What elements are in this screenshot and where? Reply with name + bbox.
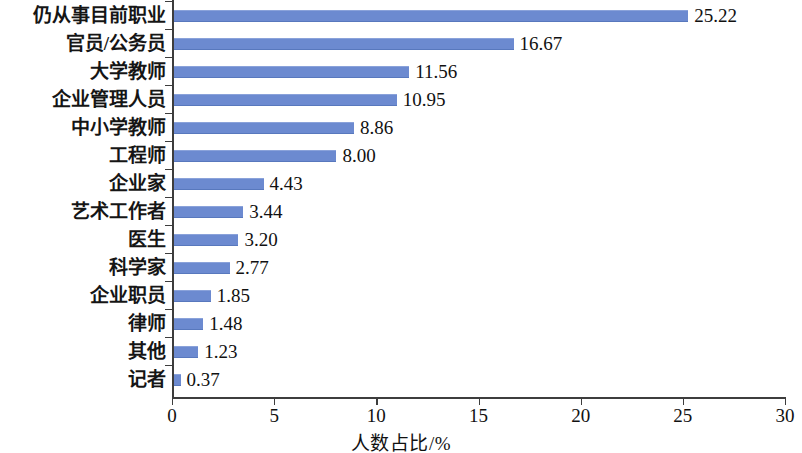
x-axis-tick-label: 15 bbox=[454, 404, 504, 428]
category-label: 其他 bbox=[0, 338, 166, 366]
bar-row: 律师1.48 bbox=[0, 310, 802, 338]
bar bbox=[173, 318, 203, 330]
bar bbox=[173, 10, 688, 22]
x-axis-tick-label: 30 bbox=[760, 404, 802, 428]
bar-value-label: 8.00 bbox=[342, 142, 375, 170]
bar bbox=[173, 178, 264, 190]
bar-row: 其他1.23 bbox=[0, 338, 802, 366]
y-axis-tick bbox=[165, 113, 172, 114]
y-axis-tick bbox=[165, 169, 172, 170]
bar bbox=[173, 150, 336, 162]
bar-value-label: 0.37 bbox=[187, 366, 220, 394]
x-axis-tick-label: 10 bbox=[351, 404, 401, 428]
x-axis-tick-label: 20 bbox=[556, 404, 606, 428]
y-axis-tick bbox=[165, 85, 172, 86]
y-axis-tick bbox=[165, 281, 172, 282]
bar-row: 企业家4.43 bbox=[0, 170, 802, 198]
category-label: 企业管理人员 bbox=[0, 86, 166, 114]
bar bbox=[173, 206, 243, 218]
category-label: 医生 bbox=[0, 226, 166, 254]
bar-value-label: 1.48 bbox=[209, 310, 242, 338]
y-axis-tick bbox=[165, 309, 172, 310]
y-axis-tick bbox=[165, 365, 172, 366]
bar bbox=[173, 374, 181, 386]
x-axis-tick-label: 25 bbox=[658, 404, 708, 428]
y-axis-tick bbox=[165, 57, 172, 58]
category-label: 仍从事目前职业 bbox=[0, 2, 166, 30]
bar-row: 工程师8.00 bbox=[0, 142, 802, 170]
bar-value-label: 3.44 bbox=[249, 198, 282, 226]
bar-value-label: 8.86 bbox=[360, 114, 393, 142]
bar bbox=[173, 94, 397, 106]
x-axis-tick-label: 5 bbox=[249, 404, 299, 428]
bar-row: 科学家2.77 bbox=[0, 254, 802, 282]
bar-row: 企业职员1.85 bbox=[0, 282, 802, 310]
x-axis-tick-label: 0 bbox=[147, 404, 197, 428]
y-axis-tick bbox=[165, 225, 172, 226]
y-axis-tick bbox=[165, 141, 172, 142]
y-axis-tick bbox=[165, 253, 172, 254]
bar-row: 仍从事目前职业25.22 bbox=[0, 2, 802, 30]
y-axis-tick bbox=[165, 29, 172, 30]
bar bbox=[173, 66, 409, 78]
category-label: 记者 bbox=[0, 366, 166, 394]
y-axis-line bbox=[172, 0, 174, 399]
bar-value-label: 25.22 bbox=[694, 2, 737, 30]
category-label: 科学家 bbox=[0, 254, 166, 282]
bar-value-label: 3.20 bbox=[244, 226, 277, 254]
bar-value-label: 16.67 bbox=[520, 30, 563, 58]
bar bbox=[173, 290, 211, 302]
bar-value-label: 4.43 bbox=[270, 170, 303, 198]
bar-value-label: 10.95 bbox=[403, 86, 446, 114]
y-axis-tick bbox=[165, 337, 172, 338]
bar-row: 大学教师11.56 bbox=[0, 58, 802, 86]
bar bbox=[173, 346, 198, 358]
category-label: 官员/公务员 bbox=[0, 30, 166, 58]
bar-row: 企业管理人员10.95 bbox=[0, 86, 802, 114]
bar-row: 医生3.20 bbox=[0, 226, 802, 254]
bar-row: 官员/公务员16.67 bbox=[0, 30, 802, 58]
category-label: 律师 bbox=[0, 310, 166, 338]
bar-value-label: 2.77 bbox=[236, 254, 269, 282]
bar bbox=[173, 122, 354, 134]
category-label: 企业家 bbox=[0, 170, 166, 198]
category-label: 中小学教师 bbox=[0, 114, 166, 142]
category-label: 工程师 bbox=[0, 142, 166, 170]
bar-value-label: 1.23 bbox=[204, 338, 237, 366]
bar bbox=[173, 262, 230, 274]
bar-row: 艺术工作者3.44 bbox=[0, 198, 802, 226]
category-label: 企业职员 bbox=[0, 282, 166, 310]
bar-row: 中小学教师8.86 bbox=[0, 114, 802, 142]
bar-value-label: 1.85 bbox=[217, 282, 250, 310]
category-label: 艺术工作者 bbox=[0, 198, 166, 226]
bar-chart: 仍从事目前职业25.22官员/公务员16.67大学教师11.56企业管理人员10… bbox=[0, 0, 802, 453]
bar-row: 记者0.37 bbox=[0, 366, 802, 394]
y-axis-tick bbox=[165, 1, 172, 2]
bar bbox=[173, 234, 238, 246]
y-axis-tick bbox=[165, 197, 172, 198]
x-axis-title: 人数占比/% bbox=[0, 428, 802, 453]
bar-value-label: 11.56 bbox=[415, 58, 457, 86]
bar bbox=[173, 38, 514, 50]
category-label: 大学教师 bbox=[0, 58, 166, 86]
